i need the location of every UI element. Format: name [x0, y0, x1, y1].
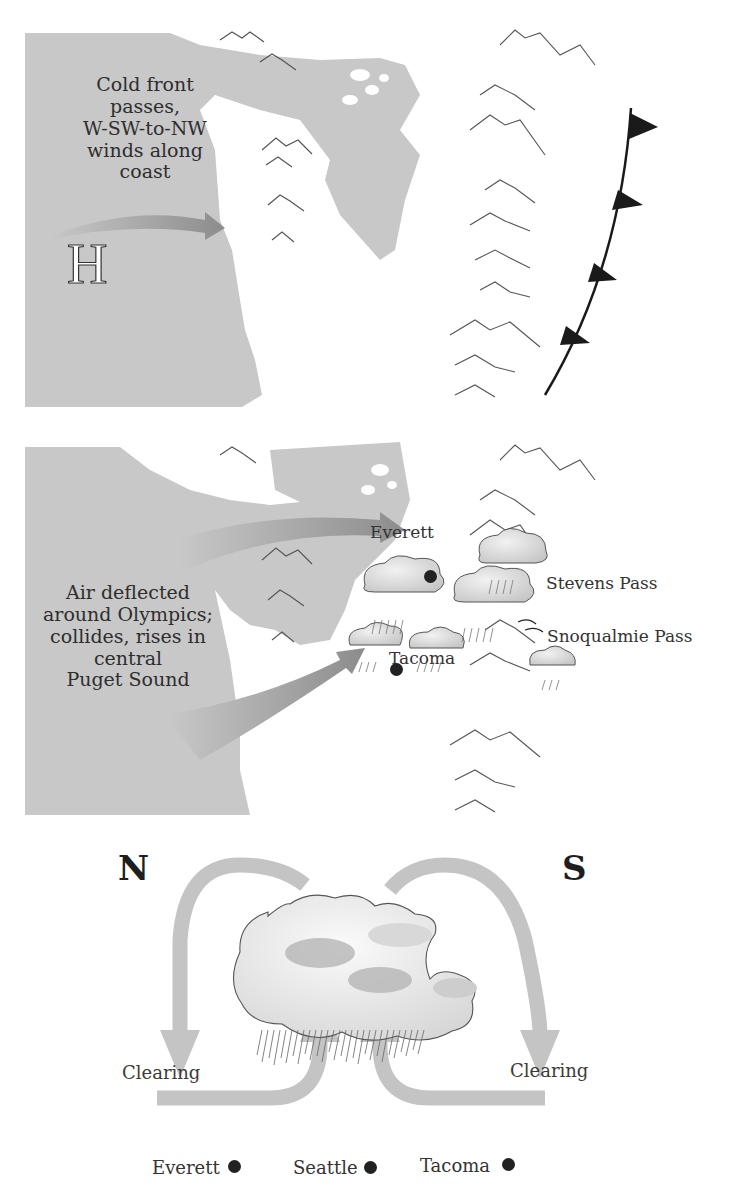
city-label-everett: Everett [152, 1157, 220, 1178]
caption-line: Cold front [40, 74, 250, 96]
city-label-tacoma: Tacoma [420, 1155, 490, 1176]
caption-line: Puget Sound [28, 669, 228, 691]
cold-front-icon [545, 108, 658, 395]
pass-label-stevens: Stevens Pass [546, 573, 658, 593]
city-label-everett: Everett [370, 522, 434, 542]
caption-line: winds along [40, 140, 250, 162]
panel1-caption: Cold front passes, W-SW-to-NW winds alon… [40, 74, 250, 183]
panel2-caption: Air deflected around Olympics; collides,… [28, 582, 228, 691]
storm-cloud-icon [233, 895, 475, 1040]
cross-section-diagram [0, 830, 742, 1193]
city-dot-icon [502, 1158, 515, 1171]
caption-line: Air deflected [28, 582, 228, 604]
city-dot-icon [364, 1161, 377, 1174]
clearing-label-right: Clearing [510, 1060, 588, 1081]
panel-convergence-cross-section: N S Clearing Clearing Everett Seattle Ta… [0, 830, 742, 1193]
panel-convergence-map: Air deflected around Olympics; collides,… [0, 430, 742, 830]
caption-line: around Olympics; [28, 604, 228, 626]
caption-line: central [28, 648, 228, 670]
high-pressure-label: H [67, 232, 107, 296]
clearing-label-left: Clearing [122, 1062, 200, 1083]
rain-icon [257, 1030, 424, 1065]
pass-label-snoqualmie: Snoqualmie Pass [547, 626, 693, 646]
panel1-map [0, 0, 742, 420]
south-label: S [562, 848, 587, 888]
north-label: N [118, 848, 149, 888]
city-dot-icon [228, 1160, 241, 1173]
city-dot-icon [424, 570, 437, 583]
caption-line: W-SW-to-NW [40, 118, 250, 140]
caption-line: passes, [40, 96, 250, 118]
panel-cold-front: H Cold front passes, W-SW-to-NW winds al… [0, 0, 742, 420]
caption-line: collides, rises in [28, 626, 228, 648]
caption-line: coast [40, 161, 250, 183]
city-dot-icon [390, 663, 403, 676]
city-label-seattle: Seattle [293, 1157, 358, 1178]
